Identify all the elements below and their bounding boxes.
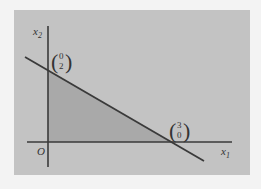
svg-text:(: ( bbox=[51, 49, 58, 74]
point-3-0-top: 3 bbox=[177, 120, 182, 130]
point-label-0-2: ( 0 2 ) bbox=[51, 49, 72, 74]
point-0-2-bottom: 2 bbox=[59, 61, 64, 71]
svg-text:(: ( bbox=[169, 118, 176, 143]
diagram: x2 x1 O ( 0 2 ) ( 3 0 ) bbox=[0, 0, 261, 189]
point-label-3-0: ( 3 0 ) bbox=[169, 118, 190, 143]
point-3-0-bottom: 0 bbox=[177, 130, 182, 140]
svg-text:): ) bbox=[65, 49, 72, 74]
origin-label: O bbox=[37, 145, 45, 157]
svg-text:): ) bbox=[183, 118, 190, 143]
point-0-2-top: 0 bbox=[59, 51, 64, 61]
